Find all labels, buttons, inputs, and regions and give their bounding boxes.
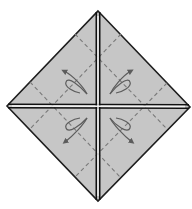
horizontal-cut-gap <box>12 106 185 107</box>
fold-diagram <box>0 0 192 209</box>
cut-lines <box>8 12 189 200</box>
